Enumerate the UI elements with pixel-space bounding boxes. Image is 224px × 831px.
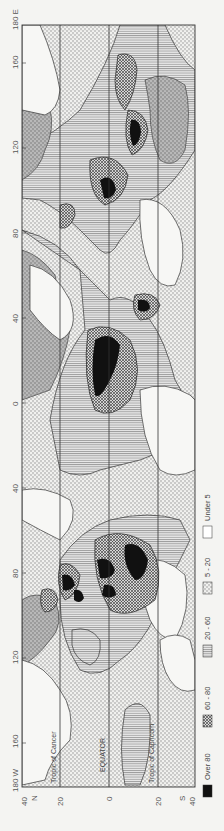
lat-label-s: S bbox=[178, 796, 187, 801]
legend-label-over-80: Over 80 bbox=[203, 753, 212, 780]
lon-label-80w: 80 bbox=[11, 569, 20, 578]
lat-label-20s: 20 bbox=[154, 797, 163, 806]
legend-swatch-over-80 bbox=[203, 785, 212, 797]
lon-label-40e: 40 bbox=[11, 314, 20, 323]
tropic-of-capricorn-label: Tropic of Capricorn bbox=[148, 724, 156, 783]
lon-label-80e: 80 bbox=[11, 229, 20, 238]
legend-swatch-under-5 bbox=[203, 526, 212, 538]
lat-label-n: N bbox=[30, 795, 39, 801]
lon-label-180w: 180 W bbox=[11, 768, 20, 792]
legend-swatch-5-20 bbox=[203, 582, 212, 594]
lon-label-0: 0 bbox=[11, 401, 20, 406]
lat-label-40s: 40 bbox=[188, 797, 197, 806]
lat-label-20n: 20 bbox=[56, 797, 65, 806]
rotated-world-map: Tropic of Cancer EQUATOR Tropic of Capri… bbox=[0, 0, 224, 831]
legend-label-under-5: Under 5 bbox=[203, 494, 212, 521]
latitude-axis: 40 N 20 0 20 S 40 bbox=[20, 795, 197, 806]
lon-label-180e: 180 E bbox=[11, 9, 20, 30]
tropic-of-cancer-label: Tropic of Cancer bbox=[50, 731, 58, 783]
map-body bbox=[22, 25, 195, 787]
legend-swatch-20-60 bbox=[203, 645, 212, 657]
legend-label-5-20: 5 - 20 bbox=[203, 558, 212, 577]
legend-swatch-60-80 bbox=[203, 715, 212, 727]
lon-label-120w: 120 bbox=[11, 650, 20, 664]
legend-label-20-60: 20 - 60 bbox=[203, 617, 212, 640]
lon-label-40w: 40 bbox=[11, 484, 20, 493]
lon-label-120e: 120 bbox=[11, 140, 20, 154]
lat-label-0: 0 bbox=[105, 796, 114, 801]
lon-label-160e: 160 bbox=[11, 55, 20, 69]
lon-label-160w: 160 bbox=[11, 734, 20, 748]
lat-label-40n: 40 bbox=[20, 797, 29, 806]
equator-label: EQUATOR bbox=[99, 738, 107, 772]
legend-label-60-80: 60 - 80 bbox=[203, 687, 212, 710]
legend: Over 80 60 - 80 20 - 60 5 - 20 Under 5 bbox=[203, 494, 212, 797]
